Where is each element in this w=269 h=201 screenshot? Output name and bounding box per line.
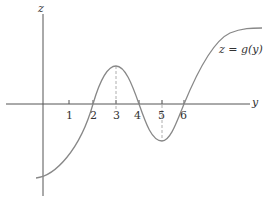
tick-marks xyxy=(69,100,184,104)
tick-label-2: 2 xyxy=(90,110,97,121)
graph-canvas xyxy=(0,0,269,201)
tick-label-1: 1 xyxy=(66,110,73,121)
curve-label: z = g(y) xyxy=(219,44,263,55)
tick-label-4: 4 xyxy=(134,110,141,121)
tick-label-3: 3 xyxy=(113,110,120,121)
z-axis-label: z xyxy=(38,3,44,14)
tick-label-6: 6 xyxy=(180,110,187,121)
y-axis-label: y xyxy=(252,97,258,108)
tick-label-5: 5 xyxy=(158,110,165,121)
